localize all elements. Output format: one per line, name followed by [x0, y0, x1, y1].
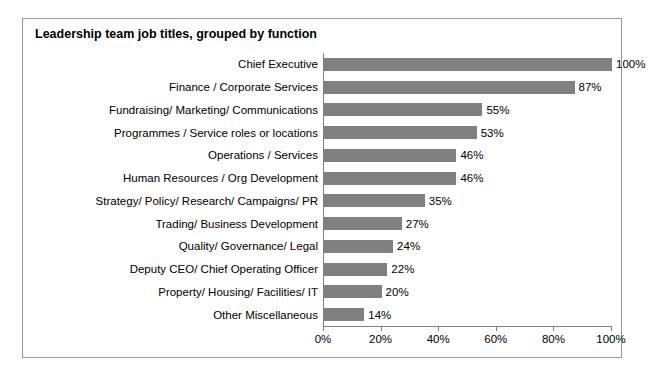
category-label-row: Trading/ Business Development [23, 217, 318, 231]
category-label-row: Finance / Corporate Services [23, 80, 318, 94]
category-label: Other Miscellaneous [213, 308, 318, 322]
x-tick-label: 80% [542, 333, 565, 345]
bar-value-label: 24% [397, 239, 420, 253]
bar [324, 308, 364, 321]
bar [324, 81, 575, 94]
bar [324, 172, 456, 185]
x-tick-mark [381, 327, 382, 331]
bar-value-label: 22% [391, 262, 414, 276]
category-label: Strategy/ Policy/ Research/ Campaigns/ P… [96, 194, 318, 208]
x-axis-line [323, 326, 612, 327]
category-label-row: Human Resources / Org Development [23, 171, 318, 185]
bar [324, 126, 477, 139]
x-tick-label: 60% [484, 333, 507, 345]
category-label-row: Deputy CEO/ Chief Operating Officer [23, 262, 318, 276]
category-label-row: Chief Executive [23, 57, 318, 71]
x-tick-mark [553, 327, 554, 331]
bar-value-label: 27% [406, 217, 429, 231]
category-label: Trading/ Business Development [155, 217, 318, 231]
category-label: Programmes / Service roles or locations [114, 126, 318, 140]
bar [324, 240, 393, 253]
category-label-row: Property/ Housing/ Facilities/ IT [23, 285, 318, 299]
category-label: Human Resources / Org Development [123, 171, 318, 185]
bar-value-label: 87% [579, 80, 602, 94]
category-label-row: Operations / Services [23, 148, 318, 162]
bar-value-label: 46% [460, 171, 483, 185]
bar [324, 285, 382, 298]
category-label: Quality/ Governance/ Legal [179, 239, 318, 253]
chart-title: Leadership team job titles, grouped by f… [35, 27, 317, 41]
category-label-row: Fundraising/ Marketing/ Communications [23, 103, 318, 117]
bar-value-label: 14% [368, 308, 391, 322]
bar [324, 149, 456, 162]
x-tick-mark [496, 327, 497, 331]
bar [324, 194, 425, 207]
x-tick-mark [323, 327, 324, 331]
category-label: Deputy CEO/ Chief Operating Officer [130, 262, 318, 276]
category-label: Chief Executive [238, 57, 318, 71]
x-tick-label: 100% [596, 333, 625, 345]
category-label: Finance / Corporate Services [169, 80, 318, 94]
bar [324, 263, 387, 276]
category-label-row: Quality/ Governance/ Legal [23, 239, 318, 253]
x-tick-label: 40% [427, 333, 450, 345]
category-label: Property/ Housing/ Facilities/ IT [158, 285, 318, 299]
category-label-row: Other Miscellaneous [23, 308, 318, 322]
category-label-row: Strategy/ Policy/ Research/ Campaigns/ P… [23, 194, 318, 208]
x-tick-mark [438, 327, 439, 331]
chart-container: Leadership team job titles, grouped by f… [22, 18, 622, 358]
bar [324, 58, 612, 71]
bar [324, 217, 402, 230]
bar-value-label: 55% [486, 103, 509, 117]
bar-value-label: 20% [386, 285, 409, 299]
bar-value-label: 35% [429, 194, 452, 208]
category-label: Operations / Services [208, 148, 318, 162]
bar-value-label: 46% [460, 148, 483, 162]
x-tick-label: 0% [315, 333, 332, 345]
category-label-row: Programmes / Service roles or locations [23, 126, 318, 140]
category-label: Fundraising/ Marketing/ Communications [109, 103, 318, 117]
bar-value-label: 53% [481, 126, 504, 140]
bar [324, 103, 482, 116]
x-tick-mark [611, 327, 612, 331]
x-tick-label: 20% [369, 333, 392, 345]
bar-value-label: 100% [616, 57, 645, 71]
